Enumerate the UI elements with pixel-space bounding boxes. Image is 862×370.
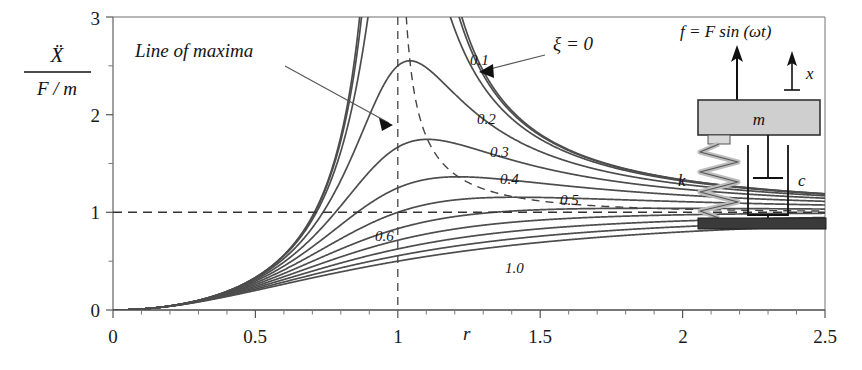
force-label: f = F sin (ωt) [680, 22, 772, 41]
y-tick-label-1: 1 [91, 202, 101, 223]
zeta-zero-label: ξ = 0 [553, 33, 593, 54]
curve-label-zeta-0.6: 0.6 [375, 228, 394, 244]
curve-label-zeta-0.1: 0.1 [470, 52, 489, 68]
x-tick-label-0: 0 [108, 326, 118, 347]
frequency-response-chart: 3 2 1 0 0 0.5 1 1.5 2 2.5 r Ẍ F / m Lin… [0, 0, 862, 370]
figure-root: 3 2 1 0 0 0.5 1 1.5 2 2.5 r Ẍ F / m Lin… [0, 0, 862, 370]
y-tick-label-3: 3 [91, 8, 101, 29]
spring-label: k [678, 171, 686, 190]
curve-label-zeta-0.4: 0.4 [500, 171, 519, 187]
mass-label: m [753, 110, 765, 129]
x-tick-label-1: 1 [393, 326, 403, 347]
x-axis-label: r [463, 323, 471, 344]
displacement-label: x [805, 64, 814, 83]
y-axis-numerator: Ẍ [50, 43, 65, 67]
x-tick-label-2.5: 2.5 [813, 326, 837, 347]
y-axis-denominator: F / m [36, 78, 77, 99]
curve-label-zeta-0.2: 0.2 [477, 111, 496, 127]
curve-label-zeta-1.0: 1.0 [505, 260, 524, 276]
y-tick-label-0: 0 [91, 300, 101, 321]
y-tick-label-2: 2 [91, 105, 101, 126]
line-of-maxima-label: Line of maxima [134, 40, 253, 61]
x-tick-label-1.5: 1.5 [528, 326, 552, 347]
ground-base [698, 218, 826, 229]
x-tick-label-2: 2 [678, 326, 688, 347]
curve-label-zeta-0.3: 0.3 [490, 144, 509, 160]
x-tick-label-0.5: 0.5 [243, 326, 267, 347]
curve-label-zeta-0.5: 0.5 [560, 192, 579, 208]
damper-label: c [798, 171, 806, 190]
